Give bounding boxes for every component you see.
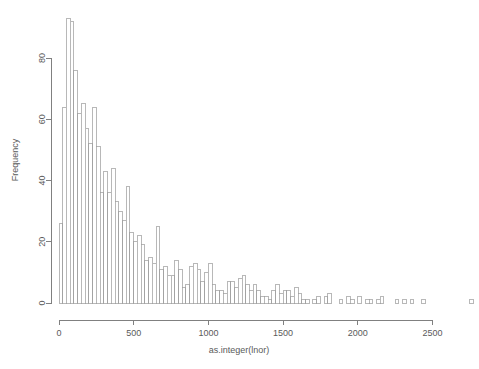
histogram-plot-area: 05001000150020002500 020406080 as.intege…: [0, 0, 479, 369]
histogram-bar: [96, 147, 100, 303]
y-axis-tick-label: 80: [37, 53, 47, 63]
histogram-bar: [70, 21, 74, 303]
histogram-bar: [134, 242, 138, 303]
x-axis-tick-label: 1500: [273, 328, 293, 338]
histogram-bar: [235, 288, 239, 303]
x-axis-tick-label: 500: [126, 328, 141, 338]
x-axis-tick-label: 0: [56, 328, 61, 338]
histogram-bar: [347, 297, 351, 303]
y-axis-tick-label: 40: [37, 175, 47, 185]
histogram-bar: [246, 285, 250, 303]
histogram-bar: [257, 291, 261, 303]
histogram-bar: [156, 226, 160, 303]
histogram-bar: [291, 297, 295, 303]
x-axis: 05001000150020002500: [56, 320, 442, 338]
histogram-bar: [104, 171, 108, 303]
histogram-bar: [306, 300, 310, 303]
histogram-bar: [186, 285, 190, 303]
histogram-bar: [317, 297, 321, 303]
histogram-bar: [205, 272, 209, 303]
histogram-bar: [126, 187, 130, 303]
histogram-bar: [201, 282, 205, 303]
histogram-bar: [268, 300, 272, 303]
histogram-bar: [313, 300, 317, 303]
histogram-bar: [395, 300, 399, 303]
histogram-bar: [369, 300, 373, 303]
histogram-bar: [152, 263, 156, 303]
histogram-bar: [193, 263, 197, 303]
histogram-bar: [328, 294, 332, 303]
histogram-bar: [145, 260, 149, 303]
histogram-bar: [261, 297, 265, 303]
histogram-bar: [149, 257, 153, 303]
histogram-bar: [208, 263, 212, 303]
histogram-bar: [227, 282, 231, 303]
histogram-bar: [85, 128, 89, 303]
histogram-bar: [410, 300, 414, 303]
histogram-bar: [287, 291, 291, 303]
histogram-bar: [179, 269, 183, 303]
histogram-bar: [302, 300, 306, 303]
histogram-bar: [89, 144, 93, 303]
histogram-bar: [276, 285, 280, 303]
histogram-bar: [212, 285, 216, 303]
histogram-bar: [100, 193, 104, 303]
histogram-bar: [190, 266, 194, 303]
histogram-bar: [66, 18, 70, 303]
histogram-bar: [78, 113, 82, 303]
histogram-bar: [264, 297, 268, 303]
histogram-bar: [220, 291, 224, 303]
histogram-bar: [380, 297, 384, 303]
histogram-bar: [294, 288, 298, 303]
histogram-bar: [182, 288, 186, 303]
histogram-bar: [470, 300, 474, 303]
histogram-chart: 05001000150020002500 020406080 as.intege…: [0, 0, 479, 369]
histogram-bar: [93, 107, 97, 303]
histogram-bar: [137, 236, 141, 303]
histogram-bar: [365, 300, 369, 303]
histogram-bar: [74, 70, 78, 303]
histogram-bar: [141, 245, 145, 303]
histogram-bar: [272, 291, 276, 303]
histogram-bar: [175, 260, 179, 303]
histogram-bar: [111, 168, 115, 303]
histogram-bar: [249, 291, 253, 303]
histogram-bar: [115, 202, 119, 303]
histogram-bar: [171, 275, 175, 303]
x-axis-title: as.integer(lnor): [209, 345, 270, 355]
histogram-bar: [231, 282, 235, 303]
y-axis-tick-label: 0: [37, 300, 47, 305]
histogram-bar: [238, 279, 242, 304]
histogram-bar: [358, 297, 362, 303]
histogram-bar: [130, 233, 134, 303]
x-axis-tick-label: 2000: [348, 328, 368, 338]
x-axis-tick-label: 1000: [198, 328, 218, 338]
histogram-bar: [242, 275, 246, 303]
histogram-bar: [164, 266, 168, 303]
x-axis-line: [59, 320, 433, 325]
histogram-bar: [108, 193, 112, 303]
y-axis-tick-label: 20: [37, 237, 47, 247]
histogram-bar: [253, 285, 257, 303]
histogram-bar: [119, 211, 123, 303]
histogram-bar: [350, 300, 354, 303]
y-axis: 020406080: [37, 53, 51, 306]
histogram-bar: [298, 294, 302, 303]
histogram-bar: [59, 223, 63, 303]
histogram-bar: [339, 300, 343, 303]
y-axis-tick-label: 60: [37, 114, 47, 124]
histogram-bar: [216, 291, 220, 303]
histogram-bar: [324, 297, 328, 303]
histogram-bar: [421, 300, 425, 303]
x-axis-tick-label: 2500: [422, 328, 442, 338]
histogram-bar: [283, 291, 287, 303]
histogram-bar: [197, 269, 201, 303]
histogram-bar: [403, 300, 407, 303]
y-axis-title: Frequency: [10, 138, 20, 181]
histogram-bar: [63, 107, 67, 303]
histogram-bar: [123, 220, 127, 303]
histogram-bar: [279, 294, 283, 303]
histogram-bar: [376, 300, 380, 303]
histogram-bar: [81, 104, 85, 303]
histogram-bar: [167, 275, 171, 303]
